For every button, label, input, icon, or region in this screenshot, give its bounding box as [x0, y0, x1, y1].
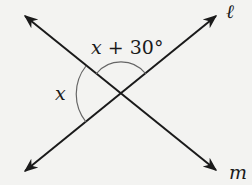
- line-label-l: ℓ: [226, 2, 234, 21]
- intersecting-lines-diagram: x + 30° x ℓ m: [0, 0, 252, 185]
- diagram-canvas: [0, 0, 252, 185]
- angle-label-left: x: [55, 84, 66, 103]
- angle-top-expression: + 30°: [102, 36, 164, 58]
- angle-label-top: x + 30°: [91, 38, 163, 57]
- angle-top-variable: x: [91, 36, 102, 58]
- line-label-m: m: [229, 163, 247, 182]
- angle-arc-left: [76, 66, 86, 122]
- angle-arc-top: [96, 62, 146, 74]
